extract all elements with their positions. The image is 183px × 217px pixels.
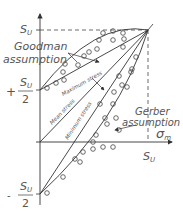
goodman-label-line1: Goodman (14, 40, 67, 53)
y-minus-sign: - (7, 190, 11, 201)
x-axis-label: σm (156, 126, 171, 142)
convergence-tick (148, 24, 153, 30)
goodman-label-line2: assumption (3, 53, 67, 66)
gerber-label-line2: assumption (122, 117, 180, 128)
y-top-su-label: SU (20, 23, 32, 37)
y-plus-numerator: SU (20, 76, 32, 90)
mean-stress-label: Mean stress (48, 98, 75, 126)
y-plus-sign: + (6, 85, 16, 99)
y-plus-denominator: 2 (22, 93, 29, 106)
x-su-tick-label: SU (143, 150, 155, 164)
y-minus-denominator: 2 (22, 197, 29, 210)
diagram-canvas: SU + SU 2 - SU 2 σm SU Goodman assumptio… (0, 0, 183, 217)
fatigue-diagram: SU + SU 2 - SU 2 σm SU Goodman assumptio… (0, 0, 183, 217)
gerber-label-line1: Gerber (135, 106, 171, 117)
y-minus-numerator: SU (20, 180, 32, 194)
